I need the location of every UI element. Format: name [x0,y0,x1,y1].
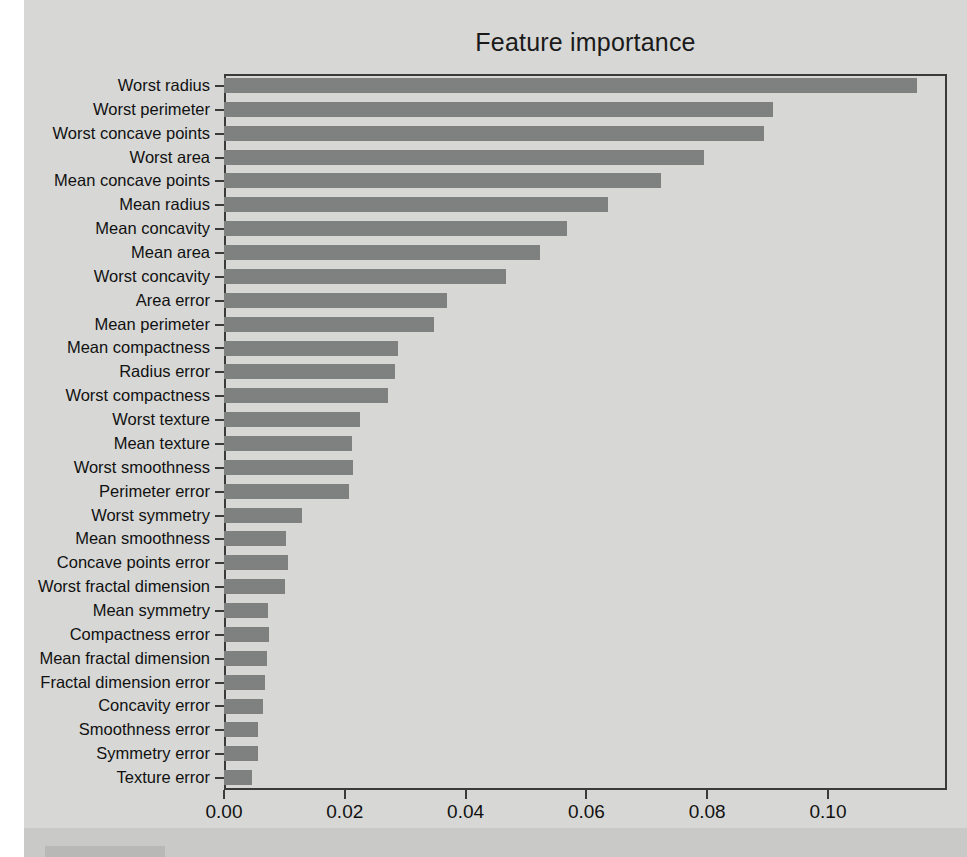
y-tick-label: Mean fractal dimension [39,650,210,666]
x-tick-label: 0.00 [206,801,243,823]
y-tick-label: Worst radius [118,77,210,93]
y-tick-label: Smoothness error [79,721,210,737]
y-tick-mark [215,610,224,612]
x-tick-label: 0.08 [689,801,726,823]
bar [224,341,398,356]
y-tick-mark [215,729,224,731]
y-tick-mark [215,157,224,159]
y-tick-label: Mean smoothness [75,530,210,546]
x-tick-mark [344,790,346,799]
y-tick-label: Area error [136,292,210,308]
bar [224,317,434,332]
y-tick-label: Worst area [130,149,210,165]
y-tick-label: Worst concavity [94,268,210,284]
bar [224,675,265,690]
bar [224,78,917,93]
y-tick-mark [215,443,224,445]
y-tick-label: Worst perimeter [93,101,210,117]
bar [224,555,288,570]
bar [224,269,506,284]
bar [224,603,268,618]
feature-importance-chart: Feature importance Worst radiusWorst per… [0,0,967,840]
bar [224,770,252,785]
bar [224,173,661,188]
bar [224,388,388,403]
chart-title: Feature importance [224,28,947,57]
y-tick-label: Mean concave points [54,172,210,188]
bar [224,102,773,117]
bar [224,245,540,260]
caption-label-strip [45,846,165,857]
y-tick-mark [215,300,224,302]
y-tick-mark [215,777,224,779]
bar [224,746,258,761]
bar [224,221,567,236]
y-tick-mark [215,419,224,421]
x-tick-label: 0.06 [568,801,605,823]
y-axis-labels: Worst radiusWorst perimeterWorst concave… [0,74,224,790]
y-tick-mark [215,658,224,660]
y-tick-label: Mean concavity [95,220,210,236]
bar [224,579,285,594]
y-tick-mark [215,705,224,707]
y-tick-label: Fractal dimension error [40,674,210,690]
y-tick-mark [215,276,224,278]
figure-page: Feature importance Worst radiusWorst per… [0,0,967,857]
y-tick-label: Worst texture [112,411,210,427]
bar [224,722,258,737]
y-tick-label: Perimeter error [99,483,210,499]
x-axis-ticks: 0.000.020.040.060.080.10 [0,790,967,840]
x-tick-mark [706,790,708,799]
x-tick-label: 0.10 [810,801,847,823]
y-tick-label: Worst fractal dimension [38,578,210,594]
bar [224,364,395,379]
x-tick-mark [827,790,829,799]
y-tick-mark [215,347,224,349]
y-tick-label: Mean symmetry [93,602,210,618]
bar [224,436,352,451]
y-tick-label: Compactness error [70,626,210,642]
y-tick-label: Worst smoothness [74,459,210,475]
y-tick-label: Worst symmetry [91,507,210,523]
y-tick-mark [215,682,224,684]
y-tick-label: Mean perimeter [94,316,210,332]
y-tick-mark [215,467,224,469]
bar [224,508,302,523]
bar [224,126,764,141]
y-tick-mark [215,538,224,540]
x-tick-label: 0.04 [447,801,484,823]
bar [224,412,360,427]
y-tick-label: Mean area [131,244,210,260]
y-tick-mark [215,180,224,182]
y-tick-mark [215,371,224,373]
y-tick-mark [215,515,224,517]
y-tick-label: Worst compactness [65,387,210,403]
y-tick-label: Texture error [116,769,210,785]
bar [224,531,286,546]
x-tick-mark [465,790,467,799]
bar [224,651,267,666]
x-tick-label: 0.02 [326,801,363,823]
y-tick-mark [215,252,224,254]
y-tick-label: Concave points error [57,554,210,570]
y-tick-mark [215,753,224,755]
bar [224,699,263,714]
bar [224,460,353,475]
y-tick-mark [215,562,224,564]
y-tick-mark [215,109,224,111]
y-tick-label: Concavity error [98,697,210,713]
bar [224,150,704,165]
y-tick-mark [215,85,224,87]
y-tick-mark [215,324,224,326]
y-tick-mark [215,133,224,135]
bar [224,627,269,642]
bar [224,484,349,499]
y-tick-label: Mean radius [119,196,210,212]
y-tick-label: Mean texture [114,435,210,451]
y-tick-mark [215,395,224,397]
x-tick-mark [585,790,587,799]
y-tick-mark [215,228,224,230]
x-tick-mark [223,790,225,799]
bar [224,197,608,212]
y-tick-mark [215,491,224,493]
